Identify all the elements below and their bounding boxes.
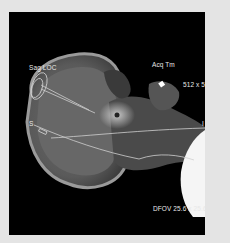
orientation-marker-right: I [202,121,204,128]
dfov-label: DFOV 25.6 x 25.6cm [153,206,205,213]
matrix-size-label: 512 x 512 [183,82,205,89]
scan-image [9,12,205,235]
series-label: Sag LOC [29,65,56,72]
image-viewport[interactable]: Sag LOC Acq Tm 512 x 512 DFOV 25.6 x 25.… [9,12,205,235]
orientation-marker-left: S [29,121,33,128]
acquisition-time-label: Acq Tm [152,62,175,69]
